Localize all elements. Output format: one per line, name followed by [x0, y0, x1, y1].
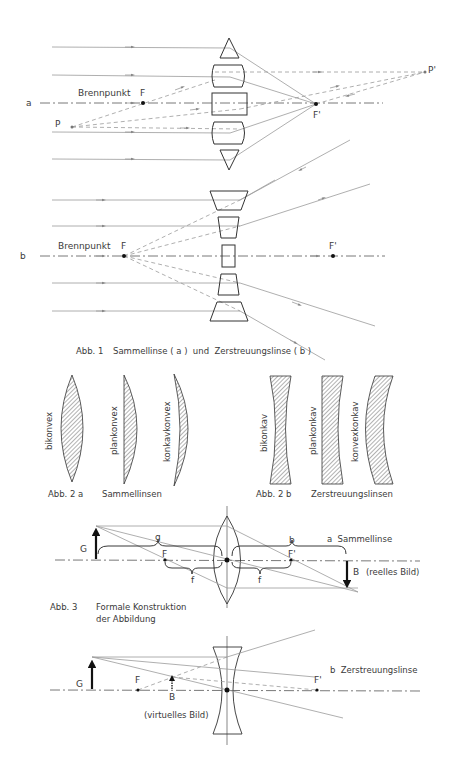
konkavkonvex-label: konkavkonvex	[162, 401, 172, 462]
fig2b-diverging-lens-types: bikonkav plankonkav konvexkonkav Abb. 2 …	[256, 376, 393, 499]
bikonvex-label: bikonvex	[44, 412, 54, 450]
row-label-b: b	[20, 251, 26, 261]
optics-diagram-page: a Brennpunkt F F' P P'	[0, 0, 453, 763]
parallel-rays	[52, 47, 316, 160]
f-right-label: f	[258, 575, 262, 585]
F-prime-label: F'	[314, 675, 322, 685]
zerstreuungslinse-title: b Zerstreuungslinse	[330, 665, 417, 675]
konvexkonkav-label: konvexkonkav	[350, 401, 360, 462]
bikonkav-lens-shape	[270, 376, 291, 484]
brennpunkt-label: Brennpunkt	[78, 88, 131, 98]
focal-point-F-prime	[331, 254, 335, 258]
fig3a-image-construction-converging: G g F b F' f f B (reelles Bild) a Sammel…	[55, 506, 420, 608]
rays-from-P	[72, 72, 425, 129]
F-label: F	[162, 549, 167, 559]
plankonkav-label: plankonkav	[308, 406, 318, 455]
F-prime-label: F'	[313, 110, 321, 120]
bikonkav-label: bikonkav	[259, 414, 269, 452]
fig2a-caption-number: Abb. 2 a	[48, 489, 83, 499]
fig1b-diverging-lens-diagram: b Brennpunkt F F'	[20, 140, 385, 360]
fig1a-converging-lens-diagram: a Brennpunkt F F' P P'	[26, 38, 436, 170]
sammellinse-title: a Sammellinse	[327, 534, 392, 544]
b-label: b	[289, 535, 295, 545]
fig1-caption-number: Abb. 1	[76, 346, 103, 356]
focal-point-F	[141, 101, 145, 105]
focal-point-F-prime	[315, 688, 318, 691]
plankonvex-lens-shape	[124, 375, 137, 484]
converging-lens-segments	[212, 38, 247, 170]
fig3-caption-line2: der Abbildung	[96, 614, 156, 624]
point-P-prime	[424, 71, 427, 74]
plankonvex-label: plankonvex	[109, 406, 119, 455]
fig3-caption-number: Abb. 3	[50, 602, 77, 612]
G-label: G	[76, 679, 83, 689]
virtual-image-note: (virtuelles Bild)	[144, 710, 209, 720]
optical-axis	[50, 690, 420, 691]
plankonkav-lens-shape	[322, 376, 343, 484]
konvexkonkav-lens-shape	[366, 376, 394, 484]
F-label: F	[135, 675, 140, 685]
g-label: g	[155, 532, 161, 542]
optical-axis	[55, 560, 420, 561]
F-label: F	[121, 241, 126, 251]
brennpunkt-label: Brennpunkt	[58, 241, 111, 251]
P-prime-label: P'	[428, 65, 436, 75]
fig3b-image-construction-diverging: G F B F' (virtuelles Bild) b Zerstreuung…	[50, 630, 420, 745]
F-label: F	[140, 88, 145, 98]
B-label: B	[353, 567, 359, 577]
f-left-label: f	[191, 575, 195, 585]
fig3-caption-line1: Formale Konstruktion	[96, 602, 187, 612]
F-prime-label: F'	[329, 241, 337, 251]
B-label: B	[169, 692, 175, 702]
focal-point-F	[136, 688, 139, 691]
fig2b-caption-number: Abb. 2 b	[256, 489, 292, 499]
fig2b-caption: Zerstreuungslinsen	[311, 489, 393, 499]
point-P	[71, 126, 74, 129]
fig1-caption: Sammellinse ( a ) und Zerstreuungslinse …	[113, 346, 311, 356]
focal-point-F	[122, 254, 126, 258]
P-label: P	[55, 119, 61, 129]
lens-center	[225, 558, 230, 563]
lens-center	[225, 688, 230, 693]
row-label-a: a	[26, 98, 32, 108]
bikonvex-lens-shape	[61, 375, 83, 482]
fig2a-caption: Sammellinsen	[102, 489, 162, 499]
G-label: G	[80, 544, 87, 554]
real-image-note: (reelles Bild)	[366, 567, 419, 577]
F-prime-label: F'	[288, 549, 296, 559]
focal-point-F-prime	[314, 102, 318, 106]
fig2a-converging-lens-types: bikonvex plankonvex konkavkonvex Abb. 2 …	[44, 374, 188, 499]
konkavkonvex-lens-shape	[174, 374, 188, 486]
